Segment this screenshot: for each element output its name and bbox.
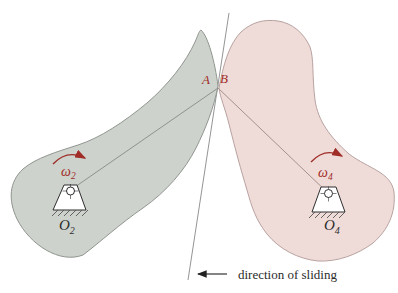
omega4-base: ω xyxy=(318,165,328,180)
contact-point-b-label: B xyxy=(220,71,228,86)
pivot-o2-base: O xyxy=(59,217,70,233)
omega2-subscript: 2 xyxy=(71,171,76,181)
sliding-caption: direction of sliding xyxy=(238,267,337,282)
pivot-o2-pin xyxy=(67,187,75,195)
pivot-o4-pin xyxy=(325,190,333,198)
pivot-o4-subscript: 4 xyxy=(335,225,340,236)
sliding-contact-diagram: A B ω2 ω4 O2 O4 direction of sliding xyxy=(0,0,398,293)
pivot-o2-subscript: 2 xyxy=(70,225,75,236)
omega2-base: ω xyxy=(61,164,71,179)
contact-point-a-label: A xyxy=(201,72,210,87)
figure-canvas: A B ω2 ω4 O2 O4 direction of sliding xyxy=(0,0,398,293)
pivot-o4-base: O xyxy=(324,217,335,233)
omega4-subscript: 4 xyxy=(328,172,333,182)
